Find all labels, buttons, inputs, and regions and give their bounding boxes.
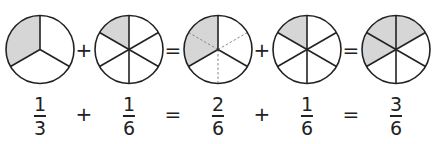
plus-sign-bottom-1: + xyxy=(76,104,93,124)
equals-sign-bottom-2: = xyxy=(343,104,360,124)
fraction-circle-2 xyxy=(95,16,163,84)
fraction-three-sixths: 3 6 xyxy=(390,96,402,137)
fraction-circle-5 xyxy=(362,15,430,83)
numerator: 1 xyxy=(34,96,46,113)
fraction-addition-diagram: + = + = 1 3 1 6 2 6 1 6 3 6 + = + = xyxy=(0,0,435,144)
denominator: 3 xyxy=(34,120,46,137)
numerator: 2 xyxy=(212,96,224,113)
equals-sign-bottom-1: = xyxy=(165,104,182,124)
denominator: 6 xyxy=(123,120,135,137)
numerator: 1 xyxy=(123,96,135,113)
denominator: 6 xyxy=(390,120,402,137)
fraction-circle-4 xyxy=(273,16,341,84)
fraction-circle-1 xyxy=(6,16,74,84)
fraction-circle-3 xyxy=(184,16,252,84)
plus-sign-top-2: + xyxy=(254,40,271,60)
denominator: 6 xyxy=(301,120,313,137)
fraction-one-sixth-a: 1 6 xyxy=(123,96,135,137)
fraction-one-third: 1 3 xyxy=(34,96,46,137)
equals-sign-top-2: = xyxy=(343,40,360,60)
numerator: 3 xyxy=(390,96,402,113)
fraction-two-sixths: 2 6 xyxy=(212,96,224,137)
plus-sign-bottom-2: + xyxy=(254,104,271,124)
fraction-one-sixth-b: 1 6 xyxy=(301,96,313,137)
plus-sign-top-1: + xyxy=(76,40,93,60)
denominator: 6 xyxy=(212,120,224,137)
equals-sign-top-1: = xyxy=(165,40,182,60)
numerator: 1 xyxy=(301,96,313,113)
